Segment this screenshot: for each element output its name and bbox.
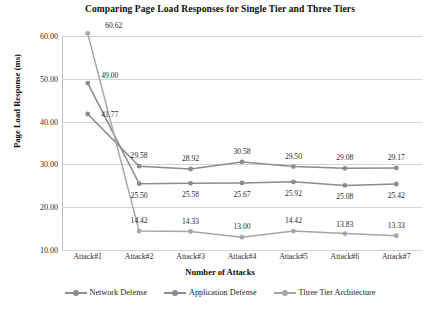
plot-area: 41.7729.5828.9230.5829.5029.0829.1749.00… — [62, 36, 422, 250]
data-point-label: 29.17 — [388, 152, 405, 161]
data-point-label: 28.92 — [182, 154, 199, 163]
data-point-marker — [188, 229, 193, 234]
legend-marker-icon — [164, 289, 186, 297]
gridline — [62, 250, 422, 251]
chart-title: Comparing Page Load Responses for Single… — [0, 4, 440, 14]
data-point-marker — [188, 167, 193, 172]
x-axis-tick-label: Attack#7 — [361, 252, 431, 261]
y-axis-tick-label: 10.00 — [10, 246, 58, 255]
data-point-label: 49.00 — [101, 71, 118, 80]
data-point-label: 25.42 — [388, 191, 405, 200]
data-point-label: 14.33 — [182, 217, 199, 226]
y-axis-tick-label: 30.00 — [10, 160, 58, 169]
y-axis-tick-label: 20.00 — [10, 203, 58, 212]
data-point-marker — [291, 164, 296, 169]
legend-item[interactable]: Application Defense — [164, 288, 257, 297]
chart-figure: Comparing Page Load Responses for Single… — [0, 0, 440, 316]
legend-item[interactable]: Three Tier Architecture — [274, 288, 376, 297]
data-point-marker — [394, 233, 399, 238]
legend-label: Three Tier Architecture — [299, 288, 376, 297]
data-point-marker — [85, 81, 90, 86]
series-line — [88, 83, 397, 185]
data-point-label: 13.33 — [388, 220, 405, 229]
data-point-label: 14.42 — [285, 216, 302, 225]
data-point-label: 29.58 — [131, 151, 148, 160]
data-point-label: 25.50 — [131, 190, 148, 199]
data-point-label: 41.77 — [101, 110, 118, 119]
data-point-label: 13.83 — [336, 219, 353, 228]
data-point-label: 13.00 — [233, 222, 250, 231]
legend-item[interactable]: Network Defense — [65, 288, 148, 297]
data-point-marker — [394, 182, 399, 187]
data-point-label: 60.62 — [105, 21, 122, 30]
data-point-marker — [137, 164, 142, 169]
data-point-marker — [394, 166, 399, 171]
data-point-label: 14.42 — [131, 216, 148, 225]
series-line — [88, 33, 397, 237]
data-point-label: 25.58 — [182, 190, 199, 199]
data-point-marker — [188, 181, 193, 186]
legend-label: Application Defense — [189, 288, 257, 297]
data-point-marker — [291, 229, 296, 234]
data-point-label: 29.08 — [336, 153, 353, 162]
data-point-marker — [85, 112, 90, 117]
data-point-label: 29.50 — [285, 151, 302, 160]
x-axis-tick-labels: Attack#1Attack#2Attack#3Attack#4Attack#5… — [62, 252, 422, 266]
data-point-marker — [342, 231, 347, 236]
y-axis-tick-label: 60.00 — [10, 32, 58, 41]
y-axis-tick-label: 50.00 — [10, 74, 58, 83]
data-point-label: 25.92 — [285, 188, 302, 197]
legend-marker-icon — [274, 289, 296, 297]
series-lines — [62, 36, 422, 250]
legend-marker-icon — [65, 289, 87, 297]
y-axis-tick-labels: 10.0020.0030.0040.0050.0060.00 — [6, 36, 58, 250]
data-point-marker — [342, 183, 347, 188]
legend-label: Network Defense — [90, 288, 148, 297]
data-point-marker — [342, 166, 347, 171]
data-point-label: 25.08 — [336, 192, 353, 201]
chart-legend: Network DefenseApplication DefenseThree … — [0, 288, 440, 297]
data-point-marker — [137, 181, 142, 186]
data-point-marker — [291, 179, 296, 184]
data-point-marker — [240, 181, 245, 186]
data-point-marker — [240, 235, 245, 240]
data-point-label: 30.58 — [233, 146, 250, 155]
data-point-marker — [85, 31, 90, 36]
data-point-label: 25.67 — [233, 189, 250, 198]
y-axis-tick-label: 40.00 — [10, 117, 58, 126]
data-point-marker — [240, 160, 245, 165]
data-point-marker — [137, 229, 142, 234]
x-axis-title: Number of Attacks — [0, 267, 440, 277]
